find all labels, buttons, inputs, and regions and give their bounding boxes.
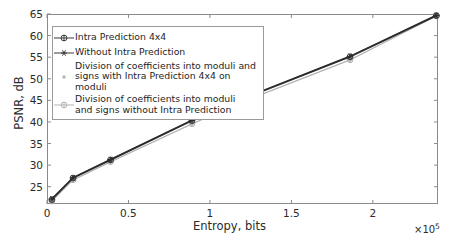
legend-item[interactable]: Division of coefficients into moduli and…	[53, 60, 260, 93]
legend-item[interactable]: Without Intra Prediction	[53, 45, 260, 60]
legend-item[interactable]: Division of coefficients into moduli and…	[53, 93, 260, 116]
legend-marker-icon	[53, 71, 75, 83]
x-tick-label: 2	[353, 207, 393, 219]
x-tick-label: 1	[190, 207, 230, 219]
legend-marker-icon	[53, 47, 75, 59]
legend-marker-icon	[53, 99, 75, 111]
chart-figure: 253035404550556065 00.511.52 Entropy, bi…	[0, 0, 459, 241]
legend-item-label: Intra Prediction 4x4	[75, 32, 166, 42]
legend-item[interactable]: Intra Prediction 4x4	[53, 30, 260, 45]
y-axis-label: PSNR, dB	[12, 58, 26, 148]
chart-legend: Intra Prediction 4x4Without Intra Predic…	[52, 26, 264, 120]
x-axis-multiplier: ×105	[414, 222, 440, 235]
y-tick-label: 60	[0, 30, 43, 42]
legend-item-label: Without Intra Prediction	[75, 47, 185, 57]
x-multiplier-base: ×10	[414, 224, 435, 235]
y-tick-label: 30	[0, 159, 43, 171]
legend-item-label: Division of coefficients into moduli and…	[75, 61, 260, 92]
x-tick-label: 0	[27, 207, 67, 219]
x-tick-label: 0.5	[108, 207, 148, 219]
x-multiplier-exponent: 5	[435, 222, 440, 231]
y-tick-label: 25	[0, 181, 43, 193]
legend-item-label: Division of coefficients into moduli and…	[75, 94, 235, 115]
y-tick-label: 65	[0, 8, 43, 20]
x-axis-label: Entropy, bits	[0, 219, 459, 233]
x-tick-label: 1.5	[271, 207, 311, 219]
legend-marker-icon	[53, 32, 75, 44]
